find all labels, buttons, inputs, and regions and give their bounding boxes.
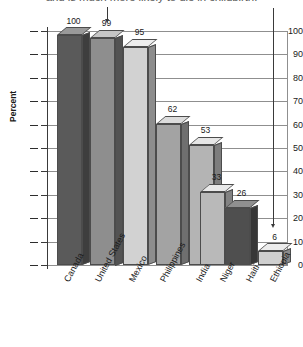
y-axis-tick bbox=[41, 101, 47, 102]
y-axis-tick bbox=[41, 171, 47, 172]
bar-niger[interactable] bbox=[200, 192, 225, 265]
y-tick-dash bbox=[30, 242, 38, 243]
y-tick-dash bbox=[30, 265, 38, 266]
bar-side bbox=[82, 32, 90, 265]
chart-title: and is much more likely to die in childb… bbox=[0, 0, 303, 3]
bar-value-mexico: 95 bbox=[123, 27, 156, 37]
annotation-arrowhead-united-states bbox=[105, 19, 109, 23]
bar-value-canada: 100 bbox=[57, 16, 90, 26]
bar-face bbox=[57, 35, 82, 265]
y-tick-dash bbox=[30, 54, 38, 55]
bar-haiti[interactable] bbox=[225, 208, 250, 265]
y-axis-tick bbox=[41, 218, 47, 219]
y-tick-dash bbox=[30, 195, 38, 196]
bar-value-haiti: 26 bbox=[225, 188, 258, 198]
y-tick-label: 60 bbox=[277, 120, 303, 130]
y-tick-label: 50 bbox=[277, 143, 303, 153]
bar-face bbox=[123, 47, 148, 265]
bar-side bbox=[148, 44, 156, 265]
y-axis-tick bbox=[41, 148, 47, 149]
y-tick-label: 20 bbox=[277, 213, 303, 223]
y-tick-label: 100 bbox=[277, 26, 303, 36]
y-axis-tick bbox=[41, 242, 47, 243]
bar-united-states[interactable] bbox=[90, 38, 115, 266]
y-tick-dash bbox=[30, 31, 38, 32]
annotation-arrowhead-ethiopia bbox=[271, 224, 275, 228]
y-axis-tick bbox=[41, 265, 47, 266]
chart-screenshot: and is much more likely to die in childb… bbox=[0, 0, 303, 347]
annotation-line-ethiopia bbox=[273, 8, 274, 225]
y-tick-label: 70 bbox=[277, 96, 303, 106]
y-tick-label: 90 bbox=[277, 49, 303, 59]
y-axis-tick bbox=[41, 78, 47, 79]
y-tick-dash bbox=[30, 78, 38, 79]
y-axis-tick bbox=[41, 195, 47, 196]
bar-value-philippines: 62 bbox=[156, 104, 189, 114]
y-tick-dash bbox=[30, 218, 38, 219]
bar-face bbox=[225, 208, 250, 265]
y-axis-tick bbox=[41, 31, 47, 32]
bar-value-niger: 33 bbox=[200, 172, 233, 182]
y-tick-dash bbox=[30, 101, 38, 102]
y-tick-dash bbox=[30, 171, 38, 172]
bar-face bbox=[200, 192, 225, 265]
y-tick-dash bbox=[30, 125, 38, 126]
y-tick-label: 40 bbox=[277, 166, 303, 176]
y-axis-label: Percent bbox=[8, 91, 18, 122]
bar-side bbox=[250, 205, 258, 265]
bar-canada[interactable] bbox=[57, 35, 82, 265]
y-axis-tick bbox=[41, 125, 47, 126]
x-tick-label-haiti: Haiti bbox=[244, 263, 261, 284]
bar-side bbox=[115, 35, 123, 265]
y-axis-tick bbox=[41, 54, 47, 55]
y-axis-line bbox=[47, 27, 48, 269]
bar-face bbox=[90, 38, 115, 266]
bar-value-india: 53 bbox=[189, 125, 222, 135]
bar-value-ethiopia: 6 bbox=[258, 232, 291, 242]
y-tick-dash bbox=[30, 148, 38, 149]
bar-mexico[interactable] bbox=[123, 47, 148, 265]
y-tick-label: 30 bbox=[277, 190, 303, 200]
y-tick-label: 80 bbox=[277, 73, 303, 83]
